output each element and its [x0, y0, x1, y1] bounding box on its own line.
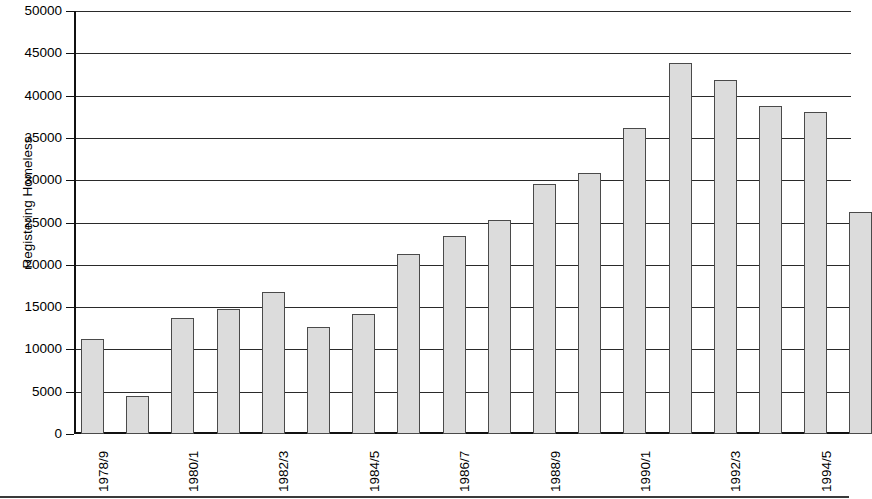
bar [759, 106, 782, 434]
y-tick-mark [66, 349, 74, 350]
y-tick-mark [66, 265, 74, 266]
y-tick-label: 25000 [0, 216, 62, 230]
y-tick-mark [66, 11, 74, 12]
y-tick-label: 50000 [0, 4, 62, 18]
y-tick-mark [66, 53, 74, 54]
y-tick-label: 30000 [0, 173, 62, 187]
y-tick-label: 5000 [0, 385, 62, 399]
x-tick-label: 1990/1 [639, 422, 653, 492]
y-tick-label: 15000 [0, 300, 62, 314]
y-tick-label: 20000 [0, 258, 62, 272]
bar [669, 63, 692, 434]
bars-container [76, 11, 851, 434]
x-tick-label: 1986/7 [458, 422, 472, 492]
y-tick-label: 0 [0, 427, 62, 441]
bar [443, 236, 466, 434]
x-tick-label: 1984/5 [368, 422, 382, 492]
bar [126, 396, 149, 434]
x-axis-tick-labels: 1978/91980/11982/31984/51986/71988/91990… [74, 434, 849, 499]
bar [849, 212, 872, 434]
y-tick-label: 40000 [0, 89, 62, 103]
bar [262, 292, 285, 434]
bar [307, 327, 330, 434]
y-tick-mark [66, 307, 74, 308]
y-axis-tick-labels: 0500010000150002000025000300003500040000… [0, 0, 62, 440]
x-tick-label: 1980/1 [187, 422, 201, 492]
y-tick-mark [66, 434, 74, 435]
y-tick-mark [66, 96, 74, 97]
bar [171, 318, 194, 434]
bar [217, 309, 240, 434]
y-tick-label: 35000 [0, 131, 62, 145]
plot-area [74, 11, 849, 434]
y-tick-mark [66, 180, 74, 181]
y-tick-mark [66, 138, 74, 139]
bar [533, 184, 556, 434]
bar [623, 128, 646, 434]
y-tick-mark [66, 223, 74, 224]
x-tick-label: 1988/9 [549, 422, 563, 492]
bar [488, 220, 511, 434]
y-tick-label: 45000 [0, 47, 62, 61]
bar [804, 112, 827, 434]
page-rule-divider [0, 496, 849, 498]
bar [397, 254, 420, 434]
bar [81, 339, 104, 434]
x-tick-label: 1978/9 [97, 422, 111, 492]
y-tick-mark [66, 392, 74, 393]
bar [714, 80, 737, 434]
x-tick-label: 1994/5 [820, 422, 834, 492]
bar [578, 173, 601, 434]
x-tick-label: 1982/3 [277, 422, 291, 492]
bar [352, 314, 375, 434]
y-tick-label: 10000 [0, 343, 62, 357]
x-tick-label: 1992/3 [729, 422, 743, 492]
